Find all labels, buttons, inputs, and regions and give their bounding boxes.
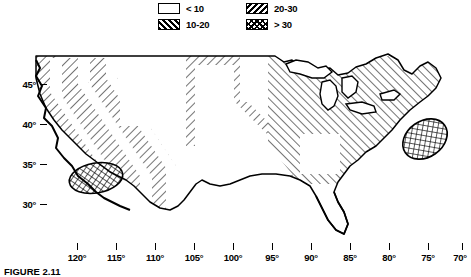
x-tick-label-120: 120°	[60, 252, 94, 263]
legend-item-gt30: > 30	[246, 19, 334, 30]
x-tick-mark-105	[194, 243, 195, 250]
y-tick-mark-35	[40, 164, 47, 165]
legend-item-lt10: < 10	[158, 3, 246, 14]
legend-label-gt30: > 30	[274, 19, 292, 30]
hotspot-northeast-gt30	[395, 110, 455, 167]
legend-label-10-20: 10-20	[186, 19, 209, 30]
x-tick-mark-110	[155, 243, 156, 250]
x-tick-mark-70	[462, 243, 463, 250]
x-tick-label-80: 80°	[372, 252, 406, 263]
x-tick-mark-115	[116, 243, 117, 250]
legend-swatch-10-20	[158, 19, 180, 30]
y-tick-label-40: 40°	[2, 119, 36, 130]
y-tick-label-35: 35°	[2, 159, 36, 170]
x-tick-label-115: 115°	[99, 252, 133, 263]
x-axis: 120° 115° 110° 105° 100° 95° 90° 85° 80°…	[0, 243, 471, 273]
x-tick-mark-90	[311, 243, 312, 250]
y-tick-label-30: 30°	[2, 199, 36, 210]
y-tick-mark-45	[40, 84, 47, 85]
choropleth-map	[0, 34, 471, 239]
x-tick-mark-75	[428, 243, 429, 250]
x-tick-label-110: 110°	[138, 252, 172, 263]
legend-label-20-30: 20-30	[274, 3, 297, 14]
legend-row: < 10 20-30	[158, 2, 338, 15]
x-tick-label-105: 105°	[177, 252, 211, 263]
y-tick-mark-30	[40, 204, 47, 205]
x-tick-label-100: 100°	[216, 252, 250, 263]
x-tick-label-95: 95°	[255, 252, 289, 263]
x-tick-mark-95	[272, 243, 273, 250]
x-tick-label-75: 75°	[411, 252, 445, 263]
legend-item-20-30: 20-30	[246, 3, 334, 14]
legend-item-10-20: 10-20	[158, 19, 246, 30]
x-tick-label-70: 70°	[443, 252, 471, 263]
figure-caption-label: FIGURE 2.11	[4, 266, 61, 277]
y-tick-mark-40	[40, 124, 47, 125]
x-tick-label-85: 85°	[333, 252, 367, 263]
x-tick-mark-80	[389, 243, 390, 250]
x-tick-mark-120	[77, 243, 78, 250]
x-tick-label-90: 90°	[294, 252, 328, 263]
legend-swatch-lt10	[158, 3, 180, 14]
map-legend: < 10 20-30 10-20 > 30	[158, 2, 338, 34]
x-tick-mark-85	[350, 243, 351, 250]
legend-swatch-20-30	[246, 3, 268, 14]
legend-label-lt10: < 10	[186, 3, 204, 14]
figure-caption: FIGURE 2.11	[4, 266, 61, 277]
y-tick-label-45: 45°	[2, 79, 36, 90]
legend-row: 10-20 > 30	[158, 18, 338, 31]
x-tick-mark-100	[233, 243, 234, 250]
map-svg	[0, 34, 471, 239]
legend-swatch-gt30	[246, 19, 268, 30]
